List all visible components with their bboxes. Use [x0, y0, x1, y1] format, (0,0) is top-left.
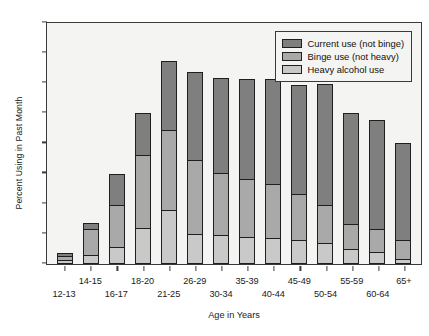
- y-tick-mark: [42, 51, 47, 52]
- bar-slot: [182, 23, 208, 264]
- x-tick-label: 16-17: [105, 289, 128, 299]
- stacked-bar[interactable]: [317, 82, 333, 264]
- x-tick-label: 55-59: [340, 276, 363, 286]
- bar-segment-binge: [291, 194, 307, 241]
- bar-segment-binge: [83, 229, 99, 256]
- plot-area: 01020304050607080 Current use (not binge…: [46, 22, 422, 265]
- bar-segment-current: [395, 143, 411, 241]
- bar-slot: [78, 23, 104, 264]
- bar-slot: [208, 23, 234, 264]
- y-tick-mark: [42, 142, 47, 143]
- bar-slot: [130, 23, 156, 264]
- bar-slot: [156, 23, 182, 264]
- chart-legend: Current use (not binge) Binge use (not h…: [275, 31, 412, 82]
- bar-segment-heavy: [83, 255, 99, 264]
- y-tick-mark: [42, 172, 47, 173]
- x-tick-label: 26-29: [183, 276, 206, 286]
- bar-segment-heavy: [291, 240, 307, 264]
- bar-segment-current: [213, 78, 229, 174]
- stacked-bar[interactable]: [109, 172, 125, 264]
- legend-item: Binge use (not heavy): [282, 50, 404, 63]
- y-tick-mark: [42, 202, 47, 203]
- legend-item: Current use (not binge): [282, 37, 404, 50]
- bar-segment-binge: [395, 240, 411, 261]
- stacked-bar[interactable]: [265, 77, 281, 264]
- bar-segment-heavy: [213, 235, 229, 264]
- bar-segment-binge: [213, 173, 229, 236]
- bar-segment-heavy: [187, 234, 203, 264]
- bar-segment-heavy: [343, 249, 359, 264]
- bar-segment-current: [291, 85, 307, 195]
- bar-segment-heavy: [265, 238, 281, 264]
- chart-figure: Percent Using in Past Month 010203040506…: [0, 0, 429, 336]
- x-tick-label: 65+: [396, 276, 411, 286]
- stacked-bar[interactable]: [291, 83, 307, 264]
- stacked-bar[interactable]: [369, 118, 385, 264]
- bar-segment-binge: [135, 155, 151, 229]
- bar-segment-binge: [317, 205, 333, 244]
- x-tick-label: 40-44: [262, 289, 285, 299]
- legend-item: Heavy alcohol use: [282, 63, 404, 76]
- bar-segment-binge: [265, 184, 281, 240]
- x-tick-label: 50-54: [314, 289, 337, 299]
- y-tick-mark: [42, 21, 47, 22]
- bar-segment-current: [135, 113, 151, 157]
- y-axis-title: Percent Using in Past Month: [14, 38, 24, 268]
- y-tick-mark: [42, 112, 47, 113]
- bar-segment-binge: [109, 205, 125, 249]
- bar-segment-binge: [343, 224, 359, 250]
- bar-segment-heavy: [109, 247, 125, 264]
- bar-slot: [234, 23, 260, 264]
- stacked-bar[interactable]: [239, 77, 255, 264]
- bar-segment-heavy: [57, 260, 73, 265]
- x-tick-label: 45-49: [288, 276, 311, 286]
- x-axis-title: Age in Years: [46, 310, 422, 320]
- bar-segment-current: [317, 84, 333, 206]
- bar-segment-current: [369, 120, 385, 230]
- legend-label: Heavy alcohol use: [308, 64, 385, 75]
- legend-swatch-heavy-use: [282, 65, 302, 74]
- bar-segment-heavy: [369, 252, 385, 264]
- bar-slot: [52, 23, 78, 264]
- stacked-bar[interactable]: [83, 220, 99, 264]
- y-tick-mark: [42, 262, 47, 263]
- bar-segment-heavy: [395, 259, 411, 264]
- stacked-bar[interactable]: [57, 250, 73, 264]
- stacked-bar[interactable]: [343, 110, 359, 264]
- legend-label: Binge use (not heavy): [308, 51, 399, 62]
- stacked-bar[interactable]: [395, 141, 411, 265]
- y-tick-mark: [42, 232, 47, 233]
- x-tick-label: 12-13: [53, 289, 76, 299]
- stacked-bar[interactable]: [187, 70, 203, 264]
- bar-segment-heavy: [317, 243, 333, 264]
- bar-segment-heavy: [239, 237, 255, 264]
- bar-segment-binge: [161, 130, 177, 211]
- x-tick-label: 21-25: [157, 289, 180, 299]
- bar-segment-current: [265, 79, 281, 184]
- legend-swatch-binge-use: [282, 52, 302, 61]
- stacked-bar[interactable]: [213, 76, 229, 264]
- x-tick-label: 18-20: [131, 276, 154, 286]
- bar-segment-heavy: [161, 210, 177, 264]
- x-tick-label: 14-15: [79, 276, 102, 286]
- bar-segment-current: [161, 61, 177, 130]
- x-axis-labels: 12-1314-1516-1718-2021-2526-2930-3435-39…: [46, 266, 422, 306]
- bar-segment-current: [343, 113, 359, 226]
- bar-segment-binge: [239, 179, 255, 238]
- bar-segment-binge: [187, 160, 203, 235]
- stacked-bar[interactable]: [135, 110, 151, 264]
- bar-segment-current: [187, 72, 203, 161]
- bar-segment-current: [109, 174, 125, 206]
- x-tick-label: 35-39: [236, 276, 259, 286]
- stacked-bar[interactable]: [161, 59, 177, 264]
- y-tick-mark: [42, 81, 47, 82]
- legend-swatch-current-use: [282, 39, 302, 48]
- legend-label: Current use (not binge): [308, 38, 404, 49]
- bar-segment-heavy: [135, 228, 151, 264]
- bar-segment-current: [239, 79, 255, 180]
- x-tick-label: 30-34: [209, 289, 232, 299]
- x-tick-label: 60-64: [366, 289, 389, 299]
- bar-segment-binge: [369, 229, 385, 253]
- bar-slot: [104, 23, 130, 264]
